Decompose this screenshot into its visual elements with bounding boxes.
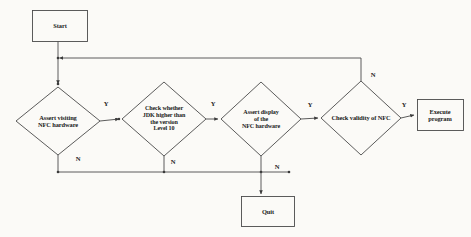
edge-check-validity-yes <box>401 115 414 118</box>
junction-bus-left <box>57 171 60 174</box>
junction-assert-visiting-top <box>57 83 60 86</box>
edge-assert-visiting-yes <box>100 119 119 121</box>
node-assert-visiting-shape <box>16 87 100 155</box>
node-quit-shape <box>242 197 295 227</box>
junction-bus-end <box>288 171 291 174</box>
node-check-jdk-shape <box>122 82 206 156</box>
junction-check-jdk-left <box>118 118 120 120</box>
node-start-shape <box>33 11 88 42</box>
node-check-validity-shape <box>321 81 401 155</box>
node-execute-shape <box>418 100 464 131</box>
junction-bus-mid <box>163 171 166 174</box>
junction-start-feedback <box>57 57 60 60</box>
edge-check-validity-no-feedback <box>60 58 362 81</box>
node-assert-display-shape <box>221 82 301 156</box>
flowchart-graphics <box>0 0 471 237</box>
flowchart-canvas: Start Assert visiting NFC hardware Check… <box>0 0 471 237</box>
edge-assert-display-yes <box>301 118 318 119</box>
